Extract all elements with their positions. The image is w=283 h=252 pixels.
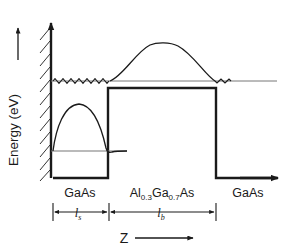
oscillating-tail-left: [53, 79, 109, 84]
dimension-label-ls: ls: [75, 206, 82, 222]
figure-container: Energy (eV) GaAs Al0.3Ga0.7As GaAs ls lb…: [0, 0, 283, 252]
region-label-right-gaas: GaAs: [232, 186, 263, 200]
barrier-label-al: Al: [130, 186, 141, 200]
dimension-label-lb: lb: [157, 206, 164, 222]
lb-subscript: b: [161, 213, 165, 222]
x-axis-label: Z: [120, 230, 129, 246]
region-label-left-gaas: GaAs: [64, 186, 95, 200]
barrier-label-sub1: 0.3: [141, 193, 153, 202]
bound-state-wavefunction: [53, 104, 127, 152]
above-barrier-wavefunction: [110, 43, 215, 81]
barrier-label-as: As: [180, 186, 195, 200]
barrier-label-sub2: 0.7: [169, 193, 181, 202]
axis-hatching: [40, 28, 50, 181]
band-diagram-figure: Energy (eV) GaAs Al0.3Ga0.7As GaAs ls lb…: [0, 0, 283, 252]
potential-profile: [53, 88, 277, 178]
ls-subscript: s: [78, 213, 81, 222]
region-label-barrier: Al0.3Ga0.7As: [130, 186, 195, 202]
barrier-label-ga: Ga: [152, 186, 169, 200]
y-axis-label: Energy (eV): [6, 94, 21, 166]
